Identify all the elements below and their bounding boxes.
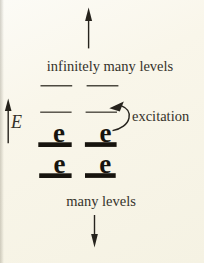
many-levels-label: many levels xyxy=(66,194,136,209)
energy-level-diagram: e e e e infinitely many levels E excitat… xyxy=(0,0,204,263)
electron-symbol: e xyxy=(53,118,65,148)
arrow-up-icon xyxy=(85,8,92,49)
infinitely-many-levels-label: infinitely many levels xyxy=(47,59,173,74)
diagram-canvas: e e e e xyxy=(0,0,204,263)
excitation-label: excitation xyxy=(132,109,189,124)
electron-symbol: e xyxy=(99,149,111,179)
excitation-arrow-icon xyxy=(109,102,129,131)
electron-symbol: e xyxy=(54,149,66,179)
electron-symbol: e xyxy=(100,118,112,148)
arrow-down-icon xyxy=(91,215,98,248)
energy-axis-label: E xyxy=(11,113,22,131)
